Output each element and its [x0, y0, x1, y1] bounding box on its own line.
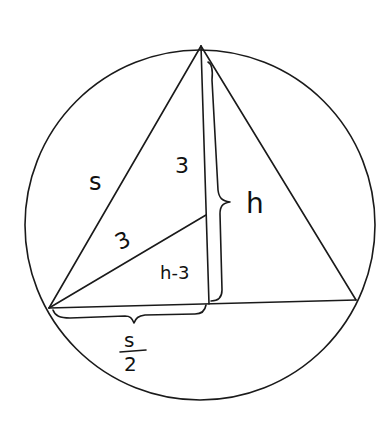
label-half-side-denominator: 2: [124, 354, 137, 374]
diagram-canvas: s 3 3 h-3 h s 2: [0, 0, 390, 428]
label-half-side-numerator: s: [124, 330, 134, 350]
label-h-minus-3: h-3: [160, 264, 189, 282]
side-base: [49, 300, 356, 308]
geometry-figure: [0, 0, 390, 428]
label-height-h: h: [246, 190, 264, 218]
altitude: [201, 46, 209, 304]
circumscribed-circle: [25, 50, 375, 400]
height-brace: [208, 62, 230, 301]
label-radius-upper: 3: [175, 155, 189, 177]
side-right: [201, 46, 356, 300]
label-side-s: s: [89, 170, 102, 194]
